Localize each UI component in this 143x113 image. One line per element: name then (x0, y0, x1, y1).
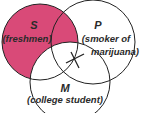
set-p-label-line2: marijuana) (91, 46, 139, 57)
set-m-letter: M (60, 82, 70, 94)
set-m-label: (college student) (27, 94, 103, 105)
set-s-letter: S (30, 19, 38, 31)
set-s-label: (freshmen) (2, 33, 51, 44)
venn-diagram: S (freshmen) P (smoker of marijuana) M (… (0, 0, 143, 113)
set-p-label-line1: (smoker of (82, 33, 131, 44)
set-p-letter: P (94, 19, 102, 31)
